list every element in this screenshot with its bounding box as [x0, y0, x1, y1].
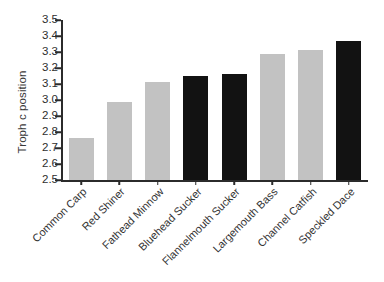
y-axis-tick-label: 3.2: [28, 62, 58, 74]
y-axis-tick-mark: [55, 131, 61, 133]
x-axis-tick-label: Largemouth Bass: [60, 186, 280, 282]
x-axis-tick-mark: [119, 181, 121, 185]
bar: [107, 102, 132, 180]
y-axis-tick-label: 3.0: [28, 94, 58, 106]
bar: [183, 76, 208, 180]
bar-chart: Troph c position 3.53.43.33.23.13.02.92.…: [0, 0, 384, 282]
y-axis-tick-mark: [55, 99, 61, 101]
y-axis-tick-mark: [55, 179, 61, 181]
bar: [260, 54, 285, 180]
x-axis-tick-mark: [348, 181, 350, 185]
bar: [145, 82, 170, 180]
x-axis-tick-mark: [272, 181, 274, 185]
y-axis-tick-mark: [55, 67, 61, 69]
x-axis-tick-label: Red Shiner: [0, 186, 127, 282]
plot-area: [62, 20, 368, 180]
bar: [298, 50, 323, 180]
y-axis-tick-label: 3.1: [28, 78, 58, 90]
y-axis-tick-mark: [55, 35, 61, 37]
y-axis-tick-label: 3.5: [28, 14, 58, 26]
y-axis-tick-mark: [55, 147, 61, 149]
y-axis-tick-mark: [55, 19, 61, 21]
y-axis-tick-label: 2.8: [28, 126, 58, 138]
x-axis-tick-mark: [195, 181, 197, 185]
y-axis-tick-label: 2.6: [28, 158, 58, 170]
y-axis-tick-label: 2.9: [28, 110, 58, 122]
x-axis-tick-mark: [80, 181, 82, 185]
x-axis-tick-mark: [233, 181, 235, 185]
bar: [69, 138, 94, 180]
x-axis-tick-label: Flannelmouth Sucker: [22, 186, 242, 282]
x-axis-tick-label: Common Carp: [0, 186, 89, 282]
bar: [336, 41, 361, 180]
x-axis-tick-label: Speckled Dace: [137, 186, 357, 282]
y-axis-tick-mark: [55, 115, 61, 117]
y-axis-tick-label: 2.7: [28, 142, 58, 154]
y-axis-tick-mark: [55, 83, 61, 85]
x-axis-tick-label: Fathead Minnow: [0, 186, 165, 282]
y-axis-tick-label: 3.4: [28, 30, 58, 42]
y-axis-tick-mark: [55, 51, 61, 53]
y-axis-tick-label: 3.3: [28, 46, 58, 58]
x-axis-tick-mark: [157, 181, 159, 185]
y-axis-tick-mark: [55, 163, 61, 165]
y-axis-tick-label: 2.5: [28, 174, 58, 186]
bar: [222, 74, 247, 180]
x-axis-tick-label: Channel Catfish: [98, 186, 318, 282]
y-axis-tick-labels: 3.53.43.33.23.13.02.92.82.72.62.5: [28, 14, 58, 182]
x-axis-tick-mark: [310, 181, 312, 185]
x-axis-tick-label: Bluehead Sucker: [0, 186, 204, 282]
x-axis-line: [61, 180, 368, 182]
